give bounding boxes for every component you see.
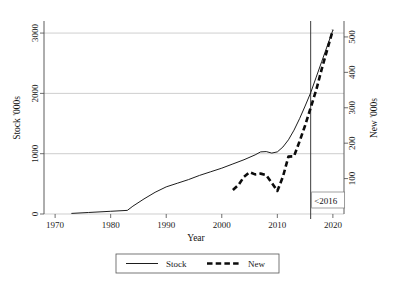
line-chart: 197019801990200020102020 0100020003000 1… [0, 0, 393, 285]
y-tick-label-2000: 2000 [30, 84, 40, 103]
legend: Stock New [116, 254, 279, 273]
x-tick-label-1980: 1980 [102, 220, 121, 230]
y-tick-label-0: 0 [30, 211, 40, 216]
y2-tick-label-400: 400 [347, 65, 357, 79]
y-tick-label-1000: 1000 [30, 144, 40, 163]
x-axis-title: Year [187, 233, 205, 243]
y2-axis-title: New '000s [369, 98, 379, 138]
y2-tick-label-500: 500 [347, 30, 357, 44]
y-axis-title: Stock '000s [12, 96, 22, 140]
legend-label-new: New [248, 259, 265, 269]
chart-container: 197019801990200020102020 0100020003000 1… [0, 0, 393, 285]
annotation-label-2016: <2016 [314, 196, 338, 206]
y2-tick-label-300: 300 [347, 101, 357, 115]
x-tick-label-2010: 2010 [268, 220, 287, 230]
x-tick-label-2020: 2020 [324, 220, 343, 230]
x-tick-label-2000: 2000 [213, 220, 232, 230]
legend-label-stock: Stock [166, 259, 187, 269]
y2-tick-label-200: 200 [347, 136, 357, 150]
y2-tick-label-100: 100 [347, 171, 357, 185]
x-tick-label-1990: 1990 [157, 220, 176, 230]
y-tick-label-3000: 3000 [30, 24, 40, 43]
x-tick-label-1970: 1970 [46, 220, 65, 230]
